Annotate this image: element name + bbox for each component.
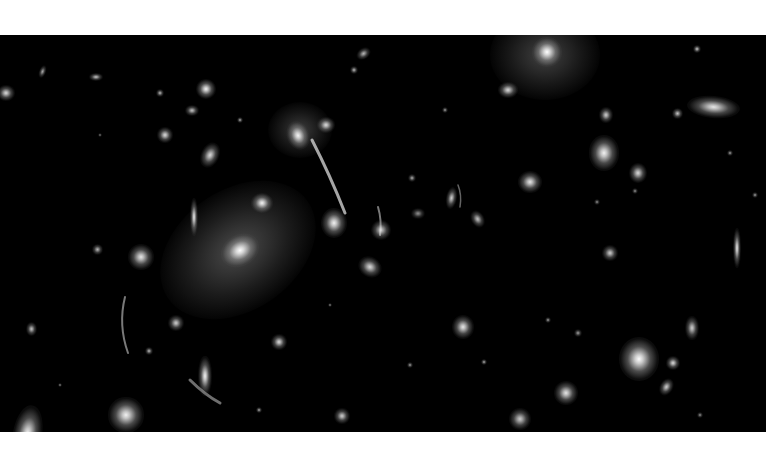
lensing-arc [378,207,381,235]
bottom-white-margin [0,432,766,456]
lensing-arc [122,297,128,353]
galaxy-cluster-image [0,35,766,432]
lensing-arc [312,140,345,213]
lensing-arc [190,380,220,403]
lensing-arc [458,185,461,207]
lensing-arcs [0,35,766,432]
top-white-margin [0,0,766,35]
